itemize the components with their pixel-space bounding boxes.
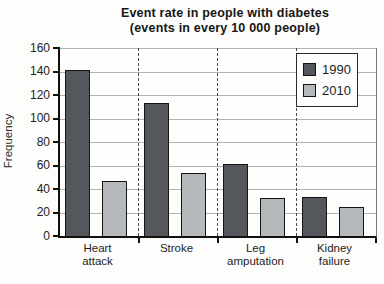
category-separator-1 xyxy=(138,48,139,236)
y-tick-label-0: 0 xyxy=(0,230,50,243)
x-label-line: Stroke xyxy=(137,242,216,255)
y-tick-label-20: 20 xyxy=(0,206,50,219)
x-label-leg-amputation: Legamputation xyxy=(216,242,295,268)
y-tick-mark-0 xyxy=(53,235,60,237)
y-tick-label-80: 80 xyxy=(0,136,50,149)
bar-chart-figure: Event rate in people with diabetes (even… xyxy=(0,0,384,284)
y-axis-tick-labels: 020406080100120140160 xyxy=(0,48,52,236)
bar-2010-stroke xyxy=(181,173,206,236)
chart-title-line2: (events in every 10 000 people) xyxy=(66,21,384,36)
x-label-line: Heart xyxy=(58,242,137,255)
plot-area: 1990 2010 xyxy=(58,48,377,238)
bar-1990-heart-attack xyxy=(65,70,90,236)
y-tick-label-40: 40 xyxy=(0,183,50,196)
x-label-line: amputation xyxy=(216,255,295,268)
legend-label-1990: 1990 xyxy=(322,62,351,77)
x-label-line: Kidney xyxy=(295,242,374,255)
x-label-line: attack xyxy=(58,255,137,268)
bar-1990-kidney-failure xyxy=(302,197,327,236)
x-label-line: Leg xyxy=(216,242,295,255)
y-tick-label-60: 60 xyxy=(0,159,50,172)
y-tick-label-100: 100 xyxy=(0,112,50,125)
y-tick-mark-80 xyxy=(53,141,60,143)
bar-2010-leg-amputation xyxy=(260,198,285,236)
gridline-y-80 xyxy=(60,142,376,143)
legend-swatch-2010 xyxy=(303,84,316,97)
gridline-y-100 xyxy=(60,119,376,120)
x-axis-labels: HeartattackStrokeLegamputationKidneyfail… xyxy=(58,242,374,276)
legend-swatch-1990 xyxy=(303,63,316,76)
y-tick-mark-40 xyxy=(53,188,60,190)
gridline-y-160 xyxy=(60,48,376,49)
y-tick-mark-60 xyxy=(53,165,60,167)
y-tick-mark-20 xyxy=(53,212,60,214)
y-tick-mark-140 xyxy=(53,71,60,73)
x-label-heart-attack: Heartattack xyxy=(58,242,137,268)
y-tick-mark-120 xyxy=(53,94,60,96)
x-label-line: failure xyxy=(295,255,374,268)
bar-1990-stroke xyxy=(144,103,169,236)
legend: 1990 2010 xyxy=(296,53,358,107)
legend-label-2010: 2010 xyxy=(322,83,351,98)
y-tick-label-160: 160 xyxy=(0,42,50,55)
category-separator-2 xyxy=(217,48,218,236)
x-label-kidney-failure: Kidneyfailure xyxy=(295,242,374,268)
y-tick-mark-100 xyxy=(53,118,60,120)
y-tick-label-120: 120 xyxy=(0,89,50,102)
legend-item-2010: 2010 xyxy=(303,80,351,101)
gridline-y-60 xyxy=(60,166,376,167)
y-tick-mark-160 xyxy=(53,47,60,49)
x-label-stroke: Stroke xyxy=(137,242,216,255)
chart-title: Event rate in people with diabetes (even… xyxy=(66,6,384,36)
bar-2010-heart-attack xyxy=(102,181,127,236)
legend-item-1990: 1990 xyxy=(303,59,351,80)
chart-title-line1: Event rate in people with diabetes xyxy=(66,6,384,21)
bar-1990-leg-amputation xyxy=(223,164,248,236)
y-tick-label-140: 140 xyxy=(0,65,50,78)
x-tick-mark-4 xyxy=(375,238,377,243)
bar-2010-kidney-failure xyxy=(339,207,364,236)
